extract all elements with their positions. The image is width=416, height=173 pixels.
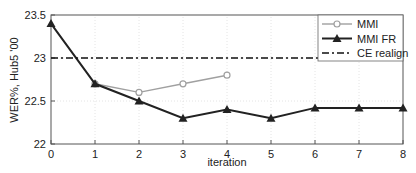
x-axis-label: iteration — [207, 156, 246, 168]
x-tick-label: 6 — [312, 148, 318, 160]
x-tick-label: 2 — [136, 148, 142, 160]
x-tick-label: 0 — [48, 148, 54, 160]
y-axis-ticks: 2222.52323.5 — [25, 9, 55, 150]
series-line — [95, 75, 227, 92]
circle-marker — [136, 89, 142, 95]
circle-marker — [224, 72, 230, 78]
x-tick-label: 3 — [180, 148, 186, 160]
y-tick-label: 22 — [34, 138, 46, 150]
y-tick-label: 23 — [34, 52, 46, 64]
triangle-marker — [47, 19, 56, 27]
triangle-marker — [223, 105, 232, 113]
x-tick-label: 5 — [268, 148, 274, 160]
y-tick-label: 23.5 — [25, 9, 46, 21]
y-tick-label: 22.5 — [25, 95, 46, 107]
circle-marker — [334, 21, 340, 27]
legend-label: MMI FR — [357, 33, 396, 45]
circle-marker — [180, 81, 186, 87]
x-tick-label: 1 — [92, 148, 98, 160]
legend-label: MMI — [357, 18, 378, 30]
wer-line-chart: 2222.52323.5 012345678 iteration WER%, H… — [0, 0, 416, 173]
legend-label: CE realign — [357, 47, 408, 59]
y-axis-label: WER%, Hub5 '00 — [8, 37, 20, 122]
legend: MMIMMI FRCE realign — [318, 15, 408, 61]
x-tick-label: 7 — [356, 148, 362, 160]
x-tick-label: 8 — [400, 148, 406, 160]
